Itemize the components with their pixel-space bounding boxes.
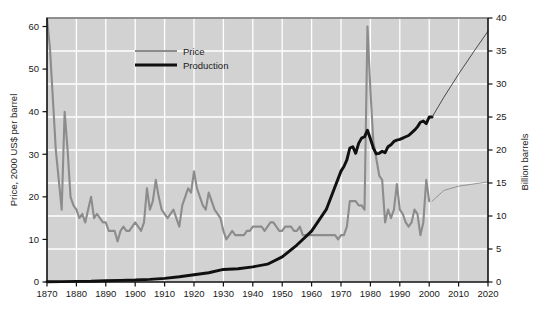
y-right-axis-title: Billion barrels	[519, 133, 530, 190]
y-left-tick-label: 20	[28, 191, 39, 202]
oil-price-production-chart: 1870188018901900191019201930194019501960…	[0, 0, 547, 314]
y-right-tick-label: 40	[496, 12, 507, 23]
x-tick-label: 2000	[419, 288, 440, 299]
y-left-axis-title: Price, 2000 US$ per barrel	[8, 94, 19, 206]
x-tick-label: 1970	[330, 288, 351, 299]
x-tick-label: 1870	[36, 288, 57, 299]
x-tick-label: 2020	[477, 288, 498, 299]
x-tick-label: 1930	[213, 288, 234, 299]
x-tick-label: 1940	[242, 288, 263, 299]
x-tick-label: 1900	[125, 288, 146, 299]
y-right-tick-label: 25	[496, 111, 507, 122]
y-right-tick-label: 5	[496, 243, 501, 254]
y-right-tick-label: 20	[496, 144, 507, 155]
y-left-tick-label: 10	[28, 234, 39, 245]
y-left-tick-label: 0	[34, 276, 39, 287]
y-left-tick-label: 50	[28, 63, 39, 74]
x-tick-label: 1910	[154, 288, 175, 299]
chart-canvas: 1870188018901900191019201930194019501960…	[0, 0, 547, 314]
y-right-tick-label: 15	[496, 177, 507, 188]
x-tick-label: 1980	[360, 288, 381, 299]
x-tick-label: 1990	[389, 288, 410, 299]
y-right-tick-label: 0	[496, 276, 501, 287]
y-right-tick-label: 10	[496, 210, 507, 221]
y-left-tick-label: 40	[28, 106, 39, 117]
y-right-tick-label: 30	[496, 78, 507, 89]
x-tick-label: 1920	[183, 288, 204, 299]
x-tick-label: 1890	[95, 288, 116, 299]
x-tick-label: 1960	[301, 288, 322, 299]
y-left-tick-label: 60	[28, 21, 39, 32]
legend-label-price: Price	[183, 46, 205, 57]
x-tick-label: 1880	[66, 288, 87, 299]
y-left-tick-label: 30	[28, 149, 39, 160]
legend-label-production: Production	[183, 60, 228, 71]
x-tick-label: 1950	[272, 288, 293, 299]
x-tick-label: 2010	[448, 288, 469, 299]
y-right-tick-label: 35	[496, 45, 507, 56]
